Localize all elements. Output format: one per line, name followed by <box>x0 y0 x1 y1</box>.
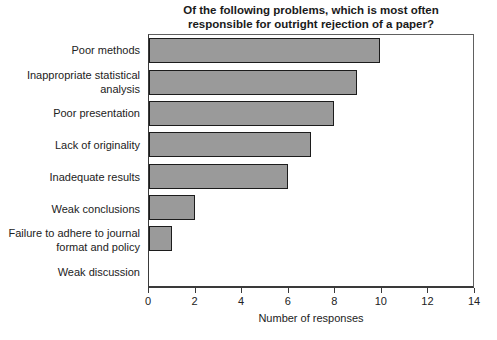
bar-row <box>149 66 473 97</box>
category-label-3: Lack of originality <box>55 138 140 152</box>
bar-3 <box>149 132 311 157</box>
x-tick-mark <box>241 288 242 293</box>
x-tick-label: 14 <box>459 295 489 307</box>
x-axis-label: Number of responses <box>148 312 474 324</box>
chart-title: Of the following problems, which is most… <box>148 3 474 31</box>
x-tick-mark <box>195 288 196 293</box>
category-label-2: Poor presentation <box>53 106 140 120</box>
x-tick-label: 4 <box>226 295 256 307</box>
bar-row <box>149 192 473 223</box>
plot-area <box>148 34 474 288</box>
category-label-6: Failure to adhere to journal format and … <box>0 226 140 254</box>
x-tick-mark <box>474 288 475 293</box>
category-label-row: Inappropriate statistical analysis <box>0 66 140 98</box>
category-label-row: Lack of originality <box>0 129 140 161</box>
category-label-4: Inadequate results <box>49 170 140 184</box>
category-label-0: Poor methods <box>72 43 140 57</box>
category-label-row: Failure to adhere to journal format and … <box>0 225 140 257</box>
bar-4 <box>149 164 288 189</box>
bar-2 <box>149 101 334 126</box>
bar-6 <box>149 226 172 251</box>
x-tick-mark <box>288 288 289 293</box>
category-label-row: Weak discussion <box>0 256 140 288</box>
x-tick-label: 8 <box>319 295 349 307</box>
bar-row <box>149 223 473 254</box>
category-axis: Poor methodsInappropriate statistical an… <box>0 34 140 288</box>
category-label-5: Weak conclusions <box>52 202 140 216</box>
x-tick-mark <box>427 288 428 293</box>
category-label-7: Weak discussion <box>58 265 140 279</box>
bar-row <box>149 255 473 286</box>
bar-5 <box>149 195 195 220</box>
bar-0 <box>149 38 380 63</box>
category-label-1: Inappropriate statistical analysis <box>0 68 140 96</box>
bar-row <box>149 129 473 160</box>
x-tick-mark <box>334 288 335 293</box>
category-label-row: Poor methods <box>0 34 140 66</box>
bar-chart-figure: Of the following problems, which is most… <box>0 0 497 340</box>
chart-title-line-2: responsible for outright rejection of a … <box>148 17 474 31</box>
x-tick-label: 10 <box>366 295 396 307</box>
x-tick-label: 0 <box>133 295 163 307</box>
bar-row <box>149 98 473 129</box>
bar-row <box>149 161 473 192</box>
bar-row <box>149 35 473 66</box>
chart-title-line-1: Of the following problems, which is most… <box>148 3 474 17</box>
category-label-row: Inadequate results <box>0 161 140 193</box>
x-tick-label: 12 <box>412 295 442 307</box>
x-tick-label: 2 <box>180 295 210 307</box>
x-tick-label: 6 <box>273 295 303 307</box>
x-tick-mark <box>381 288 382 293</box>
category-label-row: Weak conclusions <box>0 193 140 225</box>
bar-1 <box>149 70 357 95</box>
x-tick-mark <box>148 288 149 293</box>
category-label-row: Poor presentation <box>0 98 140 130</box>
